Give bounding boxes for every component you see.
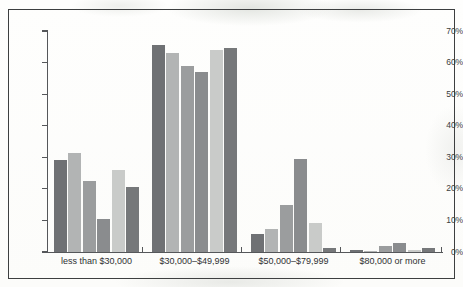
bar — [265, 229, 278, 252]
bar — [280, 205, 293, 252]
y-tick-label: 70% — [423, 27, 463, 36]
x-axis-category-label: $80,000 or more — [333, 257, 453, 266]
y-tick-mark — [42, 220, 47, 221]
bar — [181, 66, 194, 252]
bar — [224, 48, 237, 252]
bar — [54, 160, 67, 252]
y-tick-mark — [42, 62, 47, 63]
y-tick-label: 50% — [423, 90, 463, 99]
chart-page: 0%10%20%30%40%50%60%70% less than $30,00… — [0, 0, 463, 287]
bar — [309, 223, 322, 252]
bar — [68, 153, 81, 252]
y-axis-line — [47, 30, 48, 253]
y-tick-mark — [42, 157, 47, 158]
y-tick-label: 60% — [423, 58, 463, 67]
x-tick-mark — [241, 247, 242, 253]
bar — [152, 45, 165, 252]
bar — [166, 53, 179, 252]
y-tick-mark — [42, 30, 47, 31]
y-tick-mark — [42, 188, 47, 189]
bar — [294, 159, 307, 252]
plot-area: 0%10%20%30%40%50%60%70% less than $30,00… — [0, 0, 463, 287]
y-tick-label: 10% — [423, 216, 463, 225]
x-tick-mark — [340, 247, 341, 253]
x-tick-mark — [142, 247, 143, 253]
y-tick-label: 40% — [423, 121, 463, 130]
bar — [364, 251, 377, 252]
bar — [408, 250, 421, 252]
bar — [393, 243, 406, 252]
x-tick-mark — [441, 247, 442, 253]
bar — [350, 250, 363, 252]
x-axis-line — [47, 252, 443, 253]
bar — [210, 50, 223, 252]
bar — [422, 248, 435, 252]
bar — [379, 246, 392, 252]
y-tick-mark — [42, 251, 47, 252]
bar — [97, 219, 110, 252]
bar — [323, 248, 336, 252]
bar — [112, 170, 125, 252]
bar — [195, 72, 208, 252]
y-tick-mark — [42, 94, 47, 95]
y-tick-mark — [42, 125, 47, 126]
y-tick-label: 30% — [423, 153, 463, 162]
bar — [83, 181, 96, 252]
y-tick-label: 20% — [423, 184, 463, 193]
bar — [126, 187, 139, 252]
bar — [251, 234, 264, 252]
